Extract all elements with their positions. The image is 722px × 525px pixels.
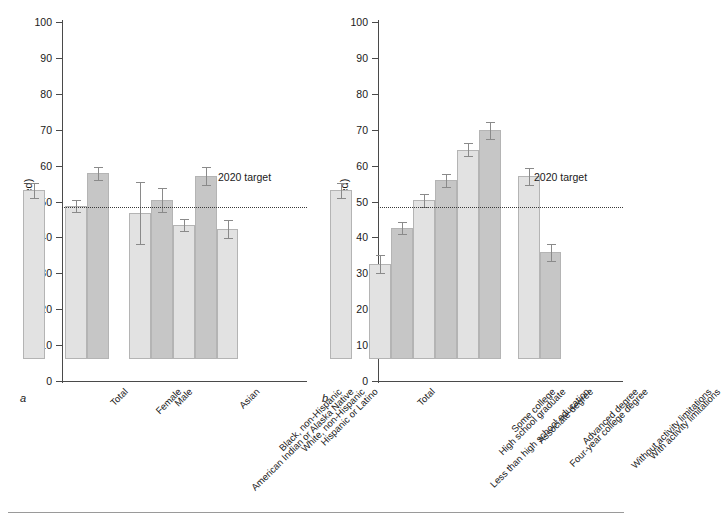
error-cap-upper — [464, 143, 473, 144]
error-cap-upper — [72, 200, 81, 201]
error-bar — [228, 220, 229, 238]
error-cap-lower — [337, 198, 346, 199]
error-bar — [380, 255, 381, 273]
error-bar — [446, 174, 447, 187]
error-cap-lower — [94, 180, 103, 181]
bar — [195, 176, 217, 359]
bar — [87, 173, 109, 359]
panel-letter-a: a — [20, 392, 26, 404]
error-cap-lower — [202, 185, 211, 186]
x-tick-label: Asian — [237, 386, 262, 411]
bar — [369, 264, 391, 359]
error-cap-upper — [442, 174, 451, 175]
bar — [23, 190, 45, 359]
error-bar — [34, 183, 35, 198]
error-cap-upper — [398, 222, 407, 223]
y-tick-label-0: 0 — [12, 375, 52, 387]
error-bar — [162, 188, 163, 212]
error-cap-lower — [442, 187, 451, 188]
error-cap-lower — [376, 273, 385, 274]
error-cap-lower — [136, 244, 145, 245]
chart-panel-a: Percent (age adjusted) 01020304050607080… — [0, 0, 316, 525]
bar — [173, 225, 195, 359]
x-tick-label: Total — [108, 386, 130, 408]
error-cap-lower — [525, 185, 534, 186]
error-cap-upper — [525, 168, 534, 169]
error-cap-upper — [136, 182, 145, 183]
panel-letter-b: b — [322, 392, 328, 404]
error-cap-lower — [224, 238, 233, 239]
error-cap-upper — [202, 167, 211, 168]
error-cap-upper — [337, 183, 346, 184]
y-tick-0 — [56, 381, 62, 382]
x-axis-line-a — [62, 381, 307, 382]
footer-rule — [8, 512, 624, 513]
error-bar — [184, 219, 185, 232]
error-cap-lower — [547, 261, 556, 262]
error-cap-upper — [30, 183, 39, 184]
target-line-b — [378, 207, 623, 208]
error-bar — [98, 167, 99, 181]
bar — [217, 229, 238, 359]
error-bar — [140, 182, 141, 243]
error-bar — [206, 167, 207, 185]
bar — [330, 190, 352, 359]
error-bar — [551, 244, 552, 262]
bar — [479, 130, 501, 359]
target-label-b: 2020 target — [534, 171, 587, 183]
bar-group-a — [0, 0, 238, 359]
error-cap-upper — [94, 167, 103, 168]
x-tick-label: With activity limitations — [646, 386, 721, 461]
bar — [457, 150, 479, 359]
bar — [413, 200, 435, 359]
error-cap-upper — [420, 194, 429, 195]
error-cap-upper — [224, 220, 233, 221]
error-bar — [424, 194, 425, 207]
target-line-a — [62, 207, 307, 208]
error-cap-upper — [180, 219, 189, 220]
error-cap-upper — [158, 188, 167, 189]
x-tick-label: Total — [415, 386, 437, 408]
bar — [391, 228, 413, 359]
chart-panel-b: Percent (age adjusted) 01020304050607080… — [316, 0, 632, 525]
bar — [540, 252, 561, 359]
error-cap-lower — [72, 212, 81, 213]
error-cap-lower — [158, 212, 167, 213]
bar — [151, 200, 173, 359]
x-axis-line-b — [378, 381, 623, 382]
error-cap-upper — [486, 122, 495, 123]
y-tick-label-0: 0 — [328, 375, 368, 387]
error-bar — [341, 183, 342, 198]
error-bar — [468, 143, 469, 156]
error-cap-lower — [30, 198, 39, 199]
error-cap-lower — [486, 139, 495, 140]
error-bar — [529, 168, 530, 185]
error-cap-lower — [464, 156, 473, 157]
error-bar — [402, 222, 403, 233]
error-cap-lower — [180, 231, 189, 232]
bar — [65, 206, 87, 359]
error-cap-upper — [547, 244, 556, 245]
bar — [518, 176, 540, 359]
error-bar — [490, 122, 491, 138]
bar-group-b — [316, 0, 554, 359]
error-cap-lower — [398, 234, 407, 235]
y-tick-0 — [372, 381, 378, 382]
error-cap-upper — [376, 255, 385, 256]
target-label-a: 2020 target — [218, 171, 271, 183]
